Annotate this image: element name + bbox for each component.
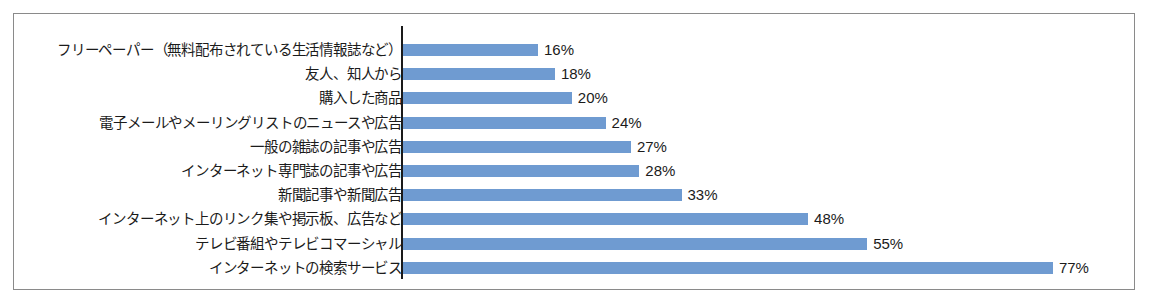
bar-track: 18% — [403, 62, 1134, 86]
bar-value-label: 20% — [572, 86, 608, 110]
category-label: 一般の雑誌の記事や広告 — [250, 135, 402, 159]
category-label: 購入した商品 — [319, 86, 402, 110]
bar-value-label: 33% — [682, 183, 718, 207]
bar — [403, 117, 606, 129]
category-label: インターネット専門誌の記事や広告 — [181, 159, 402, 183]
bar — [403, 213, 808, 225]
bar-track: 55% — [403, 232, 1134, 256]
category-label: インターネットの検索サービス — [209, 256, 402, 280]
bar-value-label: 27% — [631, 135, 667, 159]
bar — [403, 262, 1053, 274]
bar-row: インターネット専門誌の記事や広告28% — [14, 159, 1134, 183]
bar — [403, 92, 572, 104]
category-label: テレビ番組やテレビコマーシャル — [195, 232, 402, 256]
bar-track: 33% — [403, 183, 1134, 207]
bar-value-label: 16% — [538, 38, 574, 62]
bar-row: 電子メールやメーリングリストのニュースや広告24% — [14, 111, 1134, 135]
category-label: 電子メールやメーリングリストのニュースや広告 — [99, 111, 402, 135]
chart-frame: フリーペーパー（無料配布されている生活情報誌など）16%友人、知人から18%購入… — [13, 13, 1135, 290]
bar-row: 友人、知人から18% — [14, 62, 1134, 86]
bar-row: テレビ番組やテレビコマーシャル55% — [14, 232, 1134, 256]
bar — [403, 68, 555, 80]
bar-value-label: 48% — [808, 207, 844, 231]
category-label: フリーペーパー（無料配布されている生活情報誌など） — [57, 38, 402, 62]
bar-row: インターネットの検索サービス77% — [14, 256, 1134, 280]
bar-value-label: 55% — [867, 232, 903, 256]
category-label: 新聞記事や新聞広告 — [278, 183, 402, 207]
bar-track: 48% — [403, 207, 1134, 231]
bar-chart-plot-area: フリーペーパー（無料配布されている生活情報誌など）16%友人、知人から18%購入… — [14, 14, 1134, 289]
bar-value-label: 18% — [555, 62, 591, 86]
bar-row: フリーペーパー（無料配布されている生活情報誌など）16% — [14, 38, 1134, 62]
bar-row: インターネット上のリンク集や掲示板、広告など48% — [14, 207, 1134, 231]
bar-track: 20% — [403, 86, 1134, 110]
bar-value-label: 24% — [606, 111, 642, 135]
bar — [403, 44, 538, 56]
bar-track: 16% — [403, 38, 1134, 62]
bar-track: 28% — [403, 159, 1134, 183]
bar — [403, 141, 631, 153]
category-label: インターネット上のリンク集や掲示板、広告など — [98, 207, 402, 231]
bar-value-label: 77% — [1053, 256, 1089, 280]
bar-track: 77% — [403, 256, 1134, 280]
bar-value-label: 28% — [639, 159, 675, 183]
category-label: 友人、知人から — [305, 62, 402, 86]
bar-track: 27% — [403, 135, 1134, 159]
bar-row: 新聞記事や新聞広告33% — [14, 183, 1134, 207]
bar-track: 24% — [403, 111, 1134, 135]
bar-row: 一般の雑誌の記事や広告27% — [14, 135, 1134, 159]
bar — [403, 189, 682, 201]
bar — [403, 238, 867, 250]
bar — [403, 165, 639, 177]
bar-row: 購入した商品20% — [14, 86, 1134, 110]
